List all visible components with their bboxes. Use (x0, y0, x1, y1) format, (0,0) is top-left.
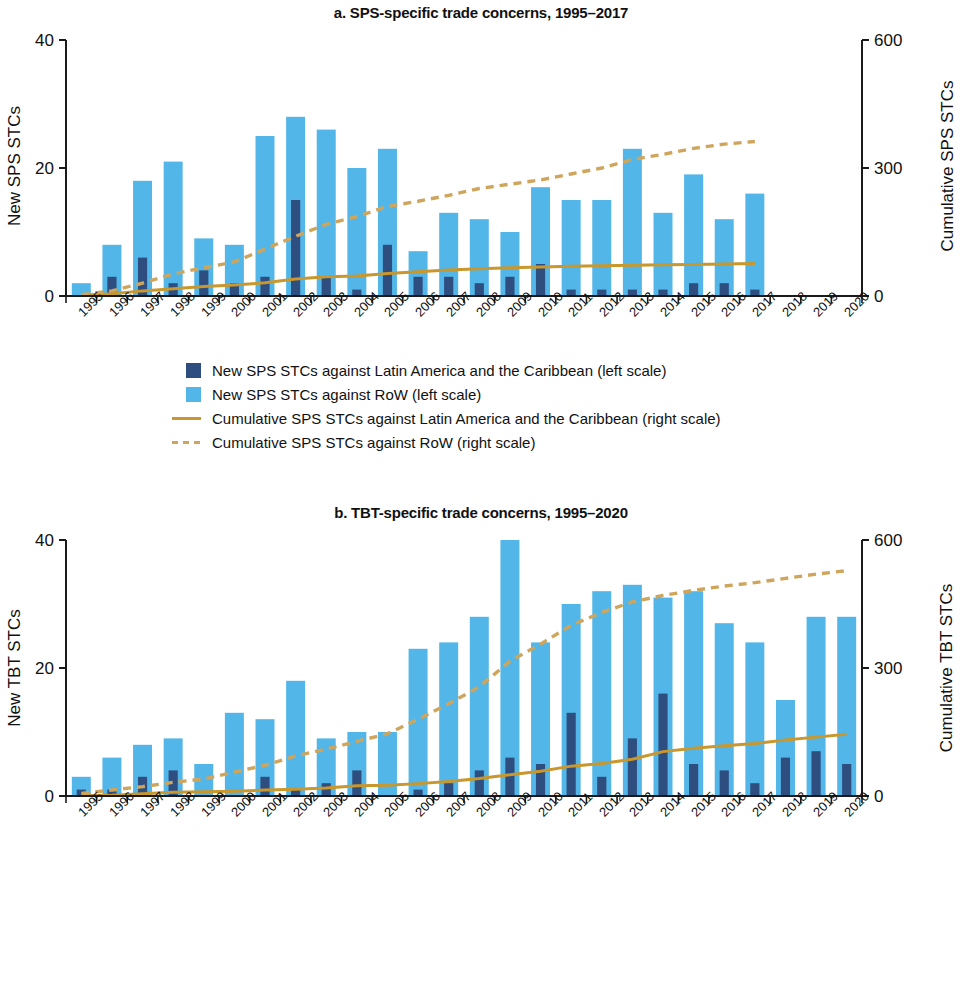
ytick-left-20: 20 (35, 159, 54, 178)
bar-lac-2017 (750, 783, 759, 796)
ytick-left-20: 20 (35, 659, 54, 678)
legend-dashed-line-icon (172, 435, 201, 450)
bar-row-2001 (256, 136, 275, 296)
bar-lac-1999 (199, 270, 208, 296)
bar-lac-2004 (352, 770, 361, 796)
bar-lac-2020 (842, 764, 851, 796)
legend-item-2: Cumulative SPS STCs against Latin Americ… (0, 406, 962, 430)
ytick-left-0: 0 (45, 287, 54, 306)
legend-item-1: New SPS STCs against RoW (left scale) (0, 382, 962, 406)
bar-lac-2016 (720, 770, 729, 796)
bar-lac-2003 (322, 277, 331, 296)
bar-row-2003 (317, 130, 336, 296)
bar-lac-2007 (444, 783, 453, 796)
bar-row-2002 (286, 681, 305, 796)
panel-b-plot-area: New TBT STCs Cumulative TBT STCs 0204003… (0, 528, 962, 828)
ytick-left-0: 0 (45, 787, 54, 806)
panel-a-title: a. SPS-specific trade concerns, 1995–201… (0, 4, 962, 21)
panel-a-x-axis-labels: 1995199619971998199920002001200220032004… (0, 26, 962, 96)
ytick-right-300: 300 (874, 159, 902, 178)
legend-solid-line-icon (172, 411, 201, 426)
bar-lac-2009 (505, 277, 514, 296)
bar-lac-2007 (444, 277, 453, 296)
bar-lac-2005 (383, 245, 392, 296)
legend-label: New SPS STCs against Latin America and t… (212, 362, 666, 379)
legend-swatch-icon (186, 387, 201, 402)
panel-a-plot-area: New SPS STCs Cumulative SPS STCs 0204003… (0, 26, 962, 336)
ytick-right-300: 300 (874, 659, 902, 678)
bar-lac-2008 (475, 770, 484, 796)
bar-row-2017 (745, 194, 764, 296)
bar-row-2015 (684, 174, 703, 296)
bar-lac-2015 (689, 764, 698, 796)
ytick-right-0: 0 (874, 287, 883, 306)
bar-lac-2012 (597, 777, 606, 796)
bar-lac-2015 (689, 283, 698, 296)
legend-label: New SPS STCs against RoW (left scale) (212, 386, 481, 403)
legend-swatch-icon (186, 363, 201, 378)
panel-a-legend: New SPS STCs against Latin America and t… (0, 358, 962, 454)
panel-b-x-axis-labels: 1995199619971998199920002001200220032004… (0, 528, 962, 598)
bar-lac-2013 (628, 738, 637, 796)
figure-root: a. SPS-specific trade concerns, 1995–201… (0, 0, 962, 986)
bar-row-2012 (592, 200, 611, 296)
bar-lac-2019 (811, 751, 820, 796)
bar-lac-2001 (260, 277, 269, 296)
bar-row-2013 (623, 149, 642, 296)
bar-lac-2008 (475, 283, 484, 296)
bar-lac-2016 (720, 283, 729, 296)
bar-row-2016 (715, 623, 734, 796)
bar-lac-2018 (781, 758, 790, 796)
bar-row-2000 (225, 713, 244, 796)
bar-lac-2006 (413, 277, 422, 296)
bar-lac-2001 (260, 777, 269, 796)
bar-lac-2003 (322, 783, 331, 796)
legend-item-3: Cumulative SPS STCs against RoW (right s… (0, 430, 962, 454)
bar-lac-2010 (536, 764, 545, 796)
bar-lac-2010 (536, 264, 545, 296)
bar-row-2017 (745, 642, 764, 796)
bar-row-2007 (439, 642, 458, 796)
bar-row-2014 (654, 213, 673, 296)
ytick-right-0: 0 (874, 787, 883, 806)
legend-item-0: New SPS STCs against Latin America and t… (0, 358, 962, 382)
bar-lac-2014 (658, 694, 667, 796)
bar-lac-2002 (291, 200, 300, 296)
legend-label: Cumulative SPS STCs against RoW (right s… (212, 434, 535, 451)
bar-lac-2011 (567, 713, 576, 796)
bar-lac-2009 (505, 758, 514, 796)
chart-panel-a: a. SPS-specific trade concerns, 1995–201… (0, 0, 962, 492)
bar-row-2008 (470, 617, 489, 796)
legend-label: Cumulative SPS STCs against Latin Americ… (212, 410, 721, 427)
bar-row-2011 (562, 200, 581, 296)
chart-panel-b: b. TBT-specific trade concerns, 1995–202… (0, 498, 962, 986)
panel-b-title: b. TBT-specific trade concerns, 1995–202… (0, 504, 962, 521)
